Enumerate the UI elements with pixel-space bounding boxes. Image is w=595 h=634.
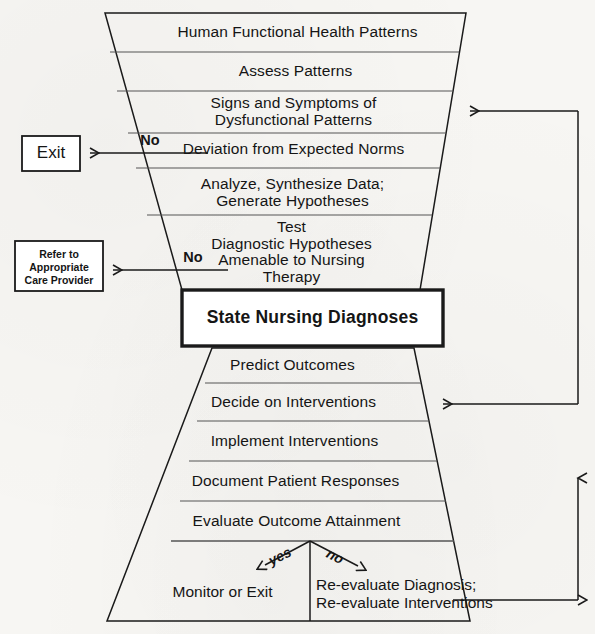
pyramid-level-predict-outcomes: Predict Outcomes — [0, 357, 590, 374]
funnel-level-assess-patterns: Assess Patterns — [0, 63, 593, 80]
funnel-level-analyze-synthesize-data: Analyze, Synthesize Data; Generate Hypot… — [0, 176, 590, 209]
outcome-re-evaluate: Re-evaluate Diagnosis; Re-evaluate Inter… — [316, 576, 476, 613]
diagnosis-box-label: State Nursing Diagnoses — [182, 308, 443, 327]
pyramid-level-implement-interventions: Implement Interventions — [0, 433, 592, 450]
pyramid-level-document-patient-responses: Document Patient Responses — [0, 473, 593, 490]
funnel-level-human-functional-health-patterns: Human Functional Health Patterns — [0, 24, 595, 41]
exit-box-label: Exit — [22, 144, 80, 162]
funnel-level-deviation-from-expected-norms: Deviation from Expected Norms — [0, 141, 591, 158]
exit-branch-label-no: No — [120, 133, 180, 149]
pyramid-level-evaluate-outcome-attainment: Evaluate Outcome Attainment — [0, 513, 594, 530]
diagram-canvas: Human Functional Health Patterns Assess … — [0, 0, 595, 634]
refer-branch-label-no: No — [163, 250, 223, 266]
outcome-monitor-or-exit: Monitor or Exit — [140, 583, 305, 601]
funnel-level-signs-and-symptoms: Signs and Symptoms of Dysfunctional Patt… — [0, 95, 591, 128]
pyramid-level-decide-on-interventions: Decide on Interventions — [0, 394, 591, 411]
refer-box-label: Refer to Appropriate Care Provider — [15, 248, 103, 286]
